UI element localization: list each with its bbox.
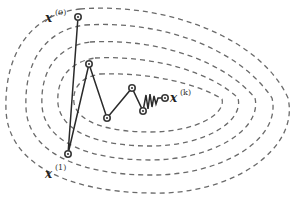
optimization-trajectory xyxy=(68,17,165,154)
label-x0-base: x xyxy=(44,11,53,25)
iterate-marker-x2 xyxy=(86,61,92,67)
trajectory-line xyxy=(68,17,165,154)
label-x1-superscript: (1) xyxy=(55,163,66,172)
iterate-marker-x0 xyxy=(75,14,81,20)
label-x0-superscript: (0) xyxy=(55,8,66,17)
iterate-markers xyxy=(65,14,168,157)
label-x1-base: x xyxy=(44,167,53,181)
iterate-marker-x3 xyxy=(104,115,110,121)
label-xk: x (k) xyxy=(169,88,191,105)
contour-plot: x (0) x (1) x (k) xyxy=(0,0,296,201)
label-xk-base: x xyxy=(169,91,178,105)
label-xk-superscript: (k) xyxy=(180,88,191,97)
iterate-marker-x5 xyxy=(140,108,146,114)
contour-level-1 xyxy=(74,74,223,132)
iterate-marker-xk xyxy=(162,95,168,101)
contour-level-5 xyxy=(6,8,289,193)
contour-lines xyxy=(6,8,289,193)
diagram-canvas: x (0) x (1) x (k) xyxy=(0,0,296,201)
iterate-marker-x1 xyxy=(65,151,71,157)
iterate-marker-x4 xyxy=(129,85,135,91)
label-x0: x (0) xyxy=(44,8,66,25)
